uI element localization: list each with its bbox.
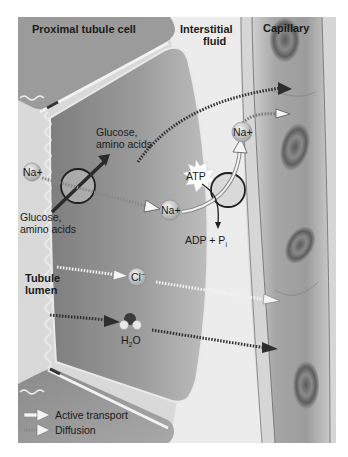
label-na-interstitial: Na+: [233, 126, 253, 138]
label-atp: ATP: [186, 170, 206, 182]
label-na-cell: Na+: [161, 204, 181, 216]
label-capillary: Capillary: [263, 22, 310, 34]
label-interstitial-fluid: fluid: [203, 35, 226, 47]
label-glucose-in: Glucose,: [20, 211, 61, 223]
label-lumen: lumen: [25, 284, 58, 296]
label-adp-pi: ADP + Pi: [185, 234, 227, 248]
legend-diffusion-label: Diffusion: [55, 424, 96, 436]
label-glucose-out: Glucose,: [96, 126, 137, 138]
legend-active-transport-label: Active transport: [55, 409, 128, 421]
label-interstitial: Interstitial: [180, 23, 233, 35]
renal-reabsorption-diagram: Proximal tubule cell Interstitial fluid …: [0, 0, 348, 457]
label-tubule: Tubule: [25, 272, 60, 284]
label-proximal-tubule-cell: Proximal tubule cell: [32, 23, 136, 35]
label-amino-acids-out: amino acids: [96, 138, 152, 150]
label-na-lumen: Na+: [23, 166, 43, 178]
red-blood-cell: [293, 361, 319, 409]
label-amino-acids-in: amino acids: [20, 223, 76, 235]
